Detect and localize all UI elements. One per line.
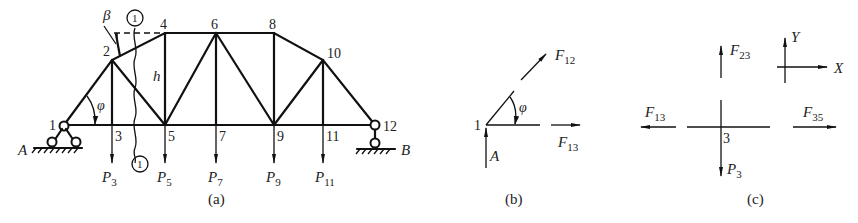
- figure-a-truss: 1 2 3 4 5 6 7 8 9 10 11 12 A B h φ β 1 1…: [17, 7, 410, 208]
- member-stub-1-2: [486, 91, 514, 125]
- axis-label-y: Y: [791, 29, 801, 45]
- angle-label-beta: β: [102, 7, 111, 23]
- caption-b: (b): [505, 191, 523, 208]
- truss-figure: 1 2 3 4 5 6 7 8 9 10 11 12 A B h φ β 1 1…: [0, 0, 858, 223]
- axis-label-x: X: [833, 60, 844, 76]
- member-6-9: [216, 33, 274, 125]
- node-label-11: 11: [326, 129, 339, 144]
- phi-arc: [87, 96, 95, 124]
- node-label-1: 1: [49, 118, 56, 133]
- figure-b-node-1: 1 A φ F12 F13 (b): [474, 47, 580, 208]
- force-label-f13: F13: [557, 134, 579, 153]
- node-label-7: 7: [219, 129, 226, 144]
- force-label-p3-c: P3: [726, 161, 742, 180]
- support-a: [32, 122, 82, 154]
- node-label-2: 2: [103, 44, 110, 59]
- phi-arc-b: [510, 97, 516, 124]
- angle-label-b-phi: φ: [519, 100, 527, 115]
- force-label-f23: F23: [729, 42, 751, 61]
- force-label-f13-c: F13: [644, 104, 666, 123]
- node-label-12: 12: [383, 119, 397, 134]
- beta-arc: [116, 34, 120, 56]
- section-marker-label-top: 1: [132, 12, 138, 24]
- force-label-f35: F35: [802, 104, 824, 123]
- load-label-p9: P9: [265, 169, 281, 188]
- force-arrow-f12: [521, 54, 546, 80]
- beta-leader: [104, 26, 116, 44]
- figure-c-node-3: 3 F23 F13 F35 P3 X Y (c): [641, 29, 844, 208]
- load-label-p11: P11: [314, 169, 335, 188]
- support-label-a: A: [17, 142, 28, 158]
- node-label-10: 10: [327, 46, 341, 61]
- caption-c: (c): [747, 191, 764, 208]
- node-label-c-3: 3: [723, 131, 730, 146]
- node-label-9: 9: [277, 129, 284, 144]
- angle-label-phi: φ: [97, 98, 105, 113]
- reaction-label-a: A: [489, 148, 500, 164]
- node-label-6: 6: [211, 17, 218, 32]
- member-9-10: [274, 60, 323, 125]
- node-label-8: 8: [269, 17, 276, 32]
- node-label-b-1: 1: [474, 118, 481, 133]
- node-label-5: 5: [168, 129, 175, 144]
- load-label-p5: P5: [156, 169, 172, 188]
- node-label-4: 4: [160, 17, 167, 32]
- force-label-f12: F12: [554, 47, 575, 66]
- section-marker-label-bottom: 1: [137, 158, 143, 170]
- caption-a: (a): [208, 191, 225, 208]
- load-label-p3: P3: [101, 169, 117, 188]
- member-5-6: [165, 33, 216, 125]
- support-label-b: B: [401, 142, 410, 158]
- node-label-3: 3: [115, 129, 122, 144]
- height-label-h: h: [153, 68, 161, 84]
- load-label-p7: P7: [207, 169, 223, 188]
